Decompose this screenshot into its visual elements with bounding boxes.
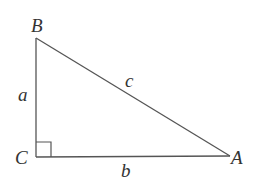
side-b-line [36, 156, 230, 157]
side-label-b: b [121, 160, 131, 181]
side-label-a: a [18, 84, 28, 105]
right-angle-marker-icon [36, 142, 51, 157]
vertex-label-c: C [15, 147, 28, 168]
triangle-svg: B C A a b c [0, 0, 263, 192]
right-triangle-diagram: B C A a b c [0, 0, 263, 192]
side-c-hypotenuse-line [36, 38, 230, 156]
vertex-label-b: B [31, 15, 43, 36]
side-label-c: c [125, 70, 134, 91]
vertex-label-a: A [229, 147, 243, 168]
